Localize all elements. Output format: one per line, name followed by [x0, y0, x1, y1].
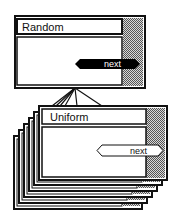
- random-next-label: next: [104, 59, 122, 69]
- diagram-canvas: Uniform next Random next: [0, 0, 180, 213]
- uniform-card: Uniform next: [39, 106, 167, 180]
- uniform-next-button[interactable]: next: [97, 145, 163, 156]
- random-title: Random: [22, 21, 64, 33]
- connector-lines: [52, 88, 102, 106]
- uniform-next-label: next: [130, 146, 148, 156]
- random-next-button[interactable]: next: [75, 59, 140, 69]
- uniform-title: Uniform: [50, 111, 89, 123]
- random-card: Random next: [15, 16, 145, 88]
